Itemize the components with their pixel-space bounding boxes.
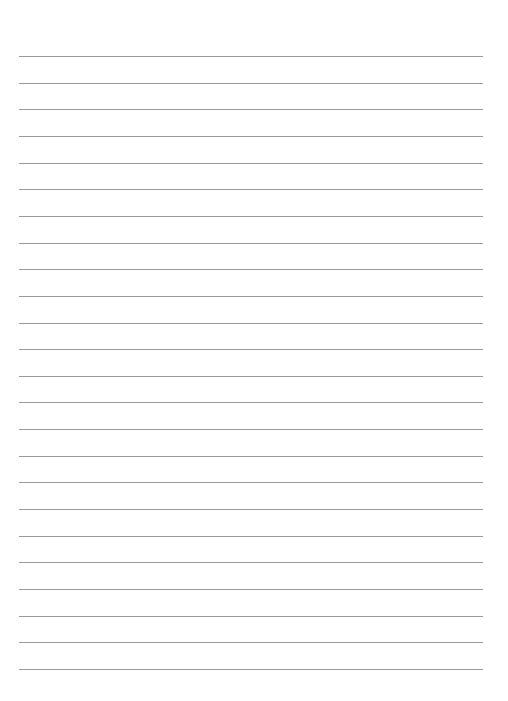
ruled-line — [19, 109, 483, 110]
ruled-line — [19, 83, 483, 84]
ruled-line — [19, 562, 483, 563]
ruled-line — [19, 536, 483, 537]
ruled-line — [19, 136, 483, 137]
ruled-line — [19, 269, 483, 270]
lined-page — [0, 0, 508, 701]
ruled-line — [19, 56, 483, 57]
ruled-line — [19, 482, 483, 483]
ruled-line — [19, 402, 483, 403]
ruled-line — [19, 669, 483, 670]
ruled-line — [19, 349, 483, 350]
ruled-line — [19, 429, 483, 430]
ruled-line — [19, 216, 483, 217]
ruled-line — [19, 376, 483, 377]
ruled-line — [19, 323, 483, 324]
ruled-line — [19, 189, 483, 190]
ruled-line — [19, 509, 483, 510]
ruled-line — [19, 642, 483, 643]
ruled-line — [19, 243, 483, 244]
ruled-line — [19, 616, 483, 617]
ruled-line — [19, 456, 483, 457]
ruled-line — [19, 296, 483, 297]
ruled-line — [19, 163, 483, 164]
ruled-line — [19, 589, 483, 590]
